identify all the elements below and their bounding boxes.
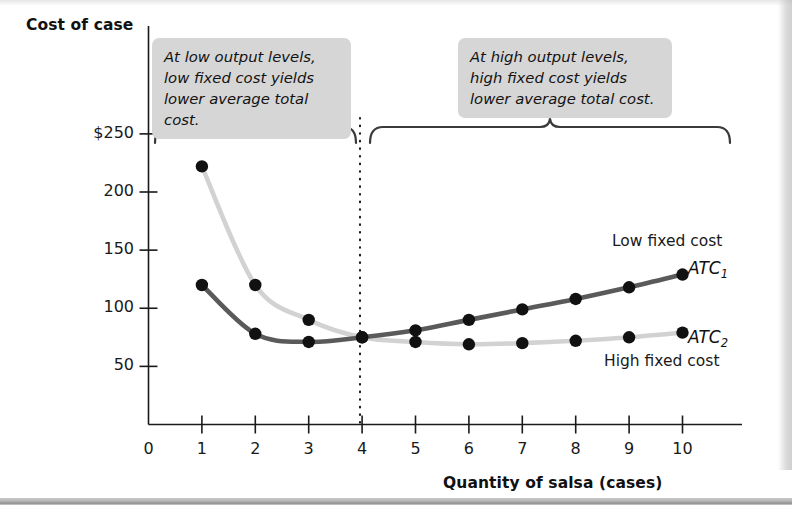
- annotation-high-output: At high output levels, high fixed cost y…: [458, 38, 672, 118]
- series-line-atc2: [202, 166, 683, 344]
- x-tick-label: 1: [182, 439, 222, 458]
- data-point-atc1: [676, 268, 688, 280]
- curve-label-atc2-text: ATC: [688, 327, 721, 347]
- data-point-atc2: [303, 314, 315, 326]
- data-point-atc1: [356, 331, 368, 343]
- x-tick-label: 10: [663, 439, 703, 458]
- data-point-atc1: [303, 336, 315, 348]
- data-point-atc2: [516, 337, 528, 349]
- data-point-atc1: [516, 303, 528, 315]
- annotation-low-output: At low output levels, low fixed cost yie…: [152, 38, 351, 139]
- x-tick-label: 9: [609, 439, 649, 458]
- data-points-atc2: [196, 160, 689, 350]
- y-tick-label: 200: [58, 181, 134, 200]
- y-tick-label: $250: [58, 123, 134, 142]
- x-tick-label: 2: [235, 439, 275, 458]
- y-axis-title: Cost of case: [26, 16, 133, 34]
- data-point-atc2: [463, 338, 475, 350]
- data-point-atc2: [676, 326, 688, 338]
- x-axis-title: Quantity of salsa (cases): [443, 474, 663, 492]
- data-point-atc1: [623, 281, 635, 293]
- x-tick-label: 5: [396, 439, 436, 458]
- series-note-low-fixed-cost: Low fixed cost: [612, 232, 722, 250]
- page-bottom-rule: [0, 498, 792, 505]
- data-point-atc1: [196, 279, 208, 291]
- data-point-atc2: [196, 160, 208, 172]
- y-tick-label: 50: [58, 355, 134, 374]
- data-point-atc2: [570, 335, 582, 347]
- bracket-high-output: [370, 119, 730, 143]
- curve-atc2-high-fixed-cost: [202, 166, 683, 344]
- series-note-high-fixed-cost: High fixed cost: [604, 352, 719, 370]
- page-bottom-margin: [0, 505, 792, 513]
- data-point-atc1: [463, 314, 475, 326]
- data-point-atc2: [409, 336, 421, 348]
- curve-label-atc1-text: ATC: [688, 258, 721, 278]
- curve-label-atc2: ATC2: [688, 327, 728, 350]
- y-tick-label: 150: [58, 239, 134, 258]
- data-point-atc2: [623, 331, 635, 343]
- data-point-atc1: [249, 328, 261, 340]
- data-point-atc1: [570, 293, 582, 305]
- x-tick-label: 7: [502, 439, 542, 458]
- data-point-atc1: [409, 324, 421, 336]
- x-tick-label: 0: [129, 439, 169, 458]
- x-tick-label: 8: [556, 439, 596, 458]
- curve-label-atc1: ATC1: [688, 258, 728, 281]
- data-point-atc2: [249, 279, 261, 291]
- x-tick-label: 3: [289, 439, 329, 458]
- curve-label-atc1-subscript: 1: [721, 267, 728, 281]
- curve-label-atc2-subscript: 2: [721, 336, 728, 350]
- curve-atc1-low-fixed-cost: [202, 275, 683, 342]
- x-tick-label: 6: [449, 439, 489, 458]
- series-line-atc1: [202, 275, 683, 342]
- y-tick-label: 100: [58, 297, 134, 316]
- figure-container: Cost of case Quantity of salsa (cases) A…: [0, 0, 792, 513]
- x-tick-label: 4: [342, 439, 382, 458]
